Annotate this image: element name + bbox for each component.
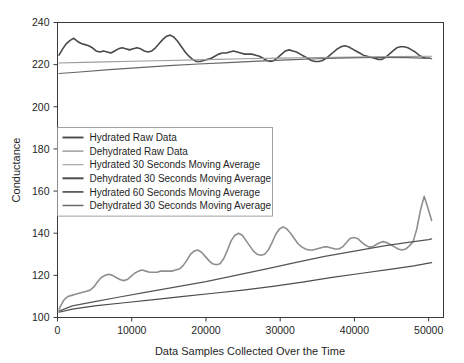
y-axis-title: Conductance [10, 138, 22, 203]
legend-label-4: Hydrated 60 Seconds Moving Average [90, 187, 261, 198]
legend-label-3: Dehydrated 30 Seconds Moving Average [90, 173, 272, 184]
legend-label-1: Dehydrated Raw Data [90, 146, 189, 157]
x-tick-label: 30000 [266, 324, 295, 336]
legend-label-2: Hydrated 30 Seconds Moving Average [90, 159, 261, 170]
y-tick-label: 240 [32, 16, 50, 28]
y-tick-label: 140 [32, 227, 50, 239]
y-tick-label: 200 [32, 101, 50, 113]
x-tick-label: 10000 [117, 324, 146, 336]
chart-legend: Hydrated Raw DataDehydrated Raw DataHydr… [58, 128, 273, 217]
y-tick-label: 220 [32, 58, 50, 70]
legend-label-5: Dehydrated 30 Seconds Moving Average [90, 200, 272, 211]
y-tick-label: 180 [32, 143, 50, 155]
x-tick-label: 40000 [340, 324, 369, 336]
x-axis-title: Data Samples Collected Over the Time [155, 345, 345, 357]
y-tick-label: 120 [32, 269, 50, 281]
y-tick-label: 160 [32, 185, 50, 197]
legend-label-0: Hydrated Raw Data [90, 132, 178, 143]
conductance-line-chart: 100120140160180200220240 010000200003000… [0, 0, 464, 363]
chart-figure: 100120140160180200220240 010000200003000… [0, 0, 464, 363]
x-tick-label: 20000 [191, 324, 220, 336]
y-tick-label: 100 [32, 311, 50, 323]
x-tick-label: 50000 [414, 324, 443, 336]
x-tick-label: 0 [55, 324, 61, 336]
